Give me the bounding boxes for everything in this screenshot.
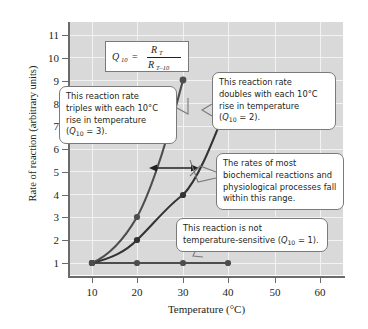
callout-q10-3: This reaction rate triples with each 10°… [59,86,177,144]
horizontal-gridline [70,149,343,150]
x-tick-mark [183,277,184,283]
y-tick-label: 4 [39,190,59,201]
x-tick-mark [92,277,93,283]
callout-biochemical-range: The rates of most biochemical reactions … [216,153,344,210]
formula-denominator-subscript: T–10 [156,64,169,71]
q10-formula-box: Q 10 = R T R T–10 [105,41,189,72]
y-tick-label: 3 [39,212,59,223]
q-value: = 1). [295,235,318,245]
x-tick-label: 50 [262,287,288,298]
callout-q10-2-line1: This reaction rate [219,77,329,89]
formula-denominator: R [148,59,154,70]
q-value: = 3). [84,126,107,136]
y-tick-mark [62,58,69,59]
callout-q10-2-line2: doubles with each 10°C [219,89,329,101]
callout-q10-2: This reaction rate doubles with each 10°… [212,72,336,130]
y-tick-label: 5 [39,167,59,178]
y-tick-mark [62,35,69,36]
y-tick-label: 1 [39,258,59,269]
formula-q: Q [112,51,119,62]
y-tick-label: 2 [39,235,59,246]
callout-range-line2: biochemical reactions and [223,170,337,182]
y-axis-title: Rate of reaction (arbitrary units) [27,24,38,244]
callout-range-line3: physiological processes fall [223,182,337,194]
formula-q-subscript: 10 [121,56,128,63]
y-tick-mark [62,81,69,82]
horizontal-gridline [70,35,343,36]
callout-range-line1: The rates of most [223,158,337,170]
x-axis-line [68,276,345,278]
y-tick-label: 8 [39,99,59,110]
y-tick-label: 7 [39,121,59,132]
horizontal-gridline [70,263,343,264]
callout-q10-1-line2: temperature-sensitive (Q10 = 1). [183,235,321,247]
x-tick-label: 30 [170,287,196,298]
x-tick-mark [320,277,321,283]
y-tick-mark [62,240,69,241]
x-axis-title: Temperature (°C) [70,303,343,315]
y-tick-label: 9 [39,76,59,87]
formula-numerator: R [151,44,157,55]
x-tick-mark [228,277,229,283]
q-subscript: 10 [229,116,237,123]
y-tick-label: 6 [39,144,59,155]
x-tick-label: 10 [79,287,105,298]
formula-fraction-bar [147,57,181,58]
formula-numerator-subscript: T [159,49,163,56]
x-tick-mark [275,277,276,283]
callout-q10-1-line1: This reaction is not [183,223,321,235]
q10-temperature-reaction-rate-chart: 11 10 9 8 7 6 5 4 3 2 1 10 20 30 40 50 6… [0,0,368,329]
y-tick-mark [62,149,69,150]
callout-q10-3-line2: triples with each 10°C [66,103,170,115]
callout-range-line4: within this range. [223,193,337,205]
x-tick-label: 40 [215,287,241,298]
x-tick-label: 20 [124,287,150,298]
y-tick-label: 10 [39,53,59,64]
q-subscript: 10 [76,130,84,137]
y-tick-mark [62,217,69,218]
callout-q10-2-line4: (Q10 = 2). [219,112,329,124]
x-tick-mark [137,277,138,283]
callout-q10-1: This reaction is not temperature-sensiti… [176,218,328,252]
callout-q10-1-text: temperature-sensitive ( [183,235,281,245]
callout-q10-3-line4: (Q10 = 3). [66,126,170,138]
q-value: = 2). [237,112,260,122]
y-tick-mark [62,172,69,173]
y-tick-mark [62,263,69,264]
y-tick-mark [62,195,69,196]
callout-q10-2-line3: rise in temperature [219,101,329,113]
x-tick-label: 60 [307,287,333,298]
y-tick-label: 11 [39,30,59,41]
formula-equals: = [132,51,138,62]
callout-q10-3-line3: rise in temperature [66,115,170,127]
callout-q10-3-line1: This reaction rate [66,91,170,103]
